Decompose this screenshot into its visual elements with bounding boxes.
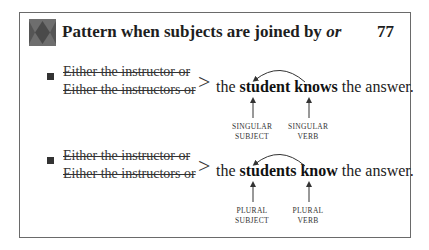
curve-arrow-2 (255, 154, 305, 166)
agreement-arrows (0, 0, 429, 250)
curve-arrow-1 (255, 70, 305, 82)
